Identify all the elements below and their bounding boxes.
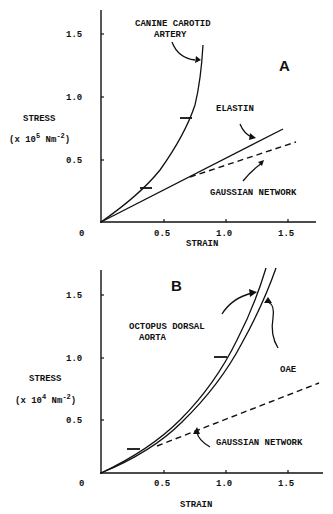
gaussian-network-dashed-b: [157, 383, 319, 446]
y-tick-label: 1.5: [66, 291, 82, 301]
octopus-dorsal-label: OCTOPUS DORSAL: [129, 322, 205, 332]
oae-label: OAE: [280, 365, 297, 375]
figure: 1.5 1.0 0.5 0 0.5 1.0 1.5 STRAIN STRESS …: [0, 0, 333, 514]
y-tick-label: 0.5: [66, 156, 82, 166]
x-tick-label: 1.5: [278, 479, 294, 489]
arrow-icon: [268, 302, 278, 348]
y-axis-label: STRESS: [23, 114, 56, 124]
arrowhead-icon: [249, 289, 257, 297]
gaussian-network-label-b: GAUSSIAN NETWORK: [216, 438, 303, 448]
arrowhead-icon: [264, 297, 272, 303]
x-tick-label: 1.5: [278, 229, 294, 239]
y-axis-unit: (x 104 Nm-2): [15, 393, 76, 406]
x-tick-label: 1.0: [216, 479, 232, 489]
x-axis-label: STRAIN: [186, 239, 218, 249]
y-axis-unit: (x 105 Nm-2): [9, 132, 70, 145]
x-tick-label: 0.5: [154, 229, 170, 239]
gaussian-network-label-a: GAUSSIAN NETWORK: [210, 188, 297, 198]
x-tick-label: 0.5: [154, 479, 170, 489]
arrow-icon: [172, 42, 195, 60]
panel-letter-a: A: [279, 57, 290, 74]
gaussian-network-dashed-a: [190, 142, 296, 177]
arrow-icon: [197, 432, 210, 447]
panel-b: 1.5 1.0 0.5 0 0.5 1.0 1.5 STRAIN STRESS …: [15, 268, 323, 510]
origin-label: 0: [79, 479, 84, 489]
origin-label: 0: [79, 229, 84, 239]
elastin-line: [101, 129, 283, 222]
y-axis-label: STRESS: [29, 374, 62, 384]
canine-carotid-label: CANINE CAROTID: [135, 19, 211, 29]
x-axis-label: STRAIN: [180, 500, 212, 510]
y-tick-label: 1.0: [66, 93, 82, 103]
canine-carotid-label-2: ARTERY: [154, 30, 187, 40]
elastin-label: ELASTIN: [216, 104, 254, 114]
y-tick-label: 1.0: [66, 354, 82, 364]
arrowhead-icon: [193, 427, 200, 434]
arrowhead-icon: [249, 133, 256, 140]
arrow-icon: [222, 293, 252, 314]
y-tick-label: 0.5: [66, 416, 82, 426]
octopus-dorsal-label-2: AORTA: [139, 333, 167, 343]
y-tick-label: 1.5: [66, 30, 82, 40]
x-tick-label: 1.0: [216, 229, 232, 239]
panel-letter-b: B: [171, 277, 182, 294]
panel-a: 1.5 1.0 0.5 0 0.5 1.0 1.5 STRAIN STRESS …: [9, 10, 316, 249]
arrow-icon: [243, 163, 262, 181]
arrowhead-icon: [195, 56, 201, 63]
